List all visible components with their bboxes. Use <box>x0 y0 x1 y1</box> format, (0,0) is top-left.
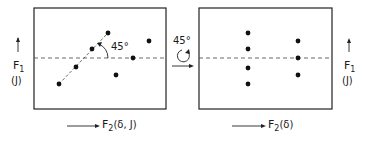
data-point <box>147 39 152 44</box>
y-axis-label-left: F1 <box>13 59 24 74</box>
arrow-right-icon <box>189 64 194 68</box>
arrow-up-icon <box>347 38 351 43</box>
left-points <box>57 31 152 87</box>
arrow-right-icon <box>261 124 266 128</box>
data-point <box>296 73 301 78</box>
y-axis-label-right: F1 <box>344 59 355 74</box>
data-point <box>90 47 95 52</box>
data-point <box>131 56 136 61</box>
arrow-right-icon <box>95 124 100 128</box>
left-panel-frame <box>34 8 166 109</box>
data-point <box>114 73 119 78</box>
rotation-transform: 45° <box>172 35 194 68</box>
data-point <box>296 39 301 44</box>
right-panel-frame <box>199 8 332 109</box>
y-axis-unit-left: (J) <box>11 75 22 86</box>
y-axis-unit-right: (J) <box>342 75 353 86</box>
right-panel: F1 (J) F2(δ) <box>199 8 355 133</box>
right-points <box>246 31 301 87</box>
data-point <box>246 66 251 71</box>
x-axis-label-left: F2(δ, J) <box>102 118 137 133</box>
diagram-canvas: 45° F1 (J) F2(δ, J) 45° F1 (J) F2(δ) <box>0 0 370 144</box>
rotate-arrowhead-icon <box>185 49 190 54</box>
data-point <box>106 31 111 36</box>
data-point <box>57 82 62 87</box>
left-panel: 45° F1 (J) F2(δ, J) <box>11 8 166 133</box>
data-point <box>246 47 251 52</box>
arrow-up-icon <box>16 37 20 42</box>
data-point <box>246 31 251 36</box>
data-point <box>296 56 301 61</box>
rotation-angle-label: 45° <box>173 35 191 46</box>
data-point <box>246 82 251 87</box>
x-axis-label-right: F2(δ) <box>268 118 293 133</box>
angle-label-left: 45° <box>111 41 129 52</box>
angle-arrowhead-icon <box>97 42 102 47</box>
data-point <box>74 65 79 70</box>
diagonal-line <box>59 33 108 84</box>
